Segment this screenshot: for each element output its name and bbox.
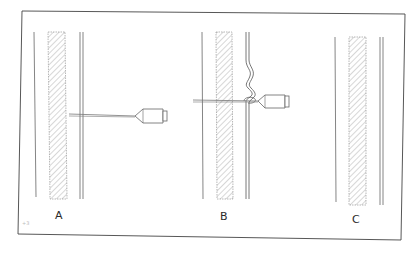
hatched-tissue-band	[216, 32, 233, 199]
hatched-tissue-band	[349, 37, 366, 205]
margin-mark: +3	[22, 220, 29, 226]
panel-c	[335, 37, 383, 205]
needle-icon	[69, 109, 167, 123]
vessel-double-wall	[246, 32, 255, 199]
panel-b	[193, 32, 289, 199]
panel-label-b: B	[220, 210, 228, 223]
figure-frame	[18, 11, 405, 240]
panel-label-a: A	[55, 209, 63, 222]
needle-icon	[193, 95, 289, 108]
panel-a	[34, 32, 167, 199]
outer-wall-line	[335, 37, 336, 202]
outer-wall-line	[202, 32, 203, 199]
vessel-double-wall	[380, 37, 383, 205]
panel-label-c: C	[352, 213, 360, 226]
hatched-tissue-band	[48, 32, 67, 199]
outer-wall-line	[34, 32, 36, 197]
vessel-double-wall	[80, 32, 83, 199]
